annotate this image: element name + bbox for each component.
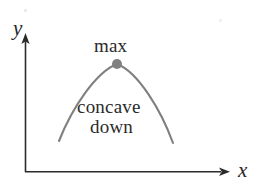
x-axis-label: x xyxy=(238,160,247,181)
max-annotation-label: max xyxy=(94,36,127,55)
paper-speck-top-left xyxy=(24,9,27,12)
concave-annotation-line-1: concave xyxy=(77,97,141,116)
concave-annotation-line-2: down xyxy=(90,117,133,136)
paper-speck-top-right xyxy=(219,19,222,22)
y-axis-label: y xyxy=(13,18,22,39)
maximum-point-dot xyxy=(112,59,122,69)
figure-container: y x max concave down xyxy=(0,0,263,192)
